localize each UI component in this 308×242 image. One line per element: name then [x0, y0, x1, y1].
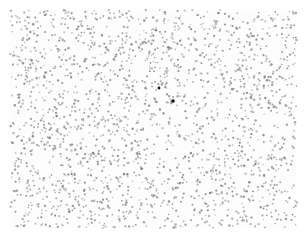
scatter-figure [0, 0, 308, 242]
scatter-canvas [0, 0, 308, 242]
plot-area [0, 0, 308, 242]
